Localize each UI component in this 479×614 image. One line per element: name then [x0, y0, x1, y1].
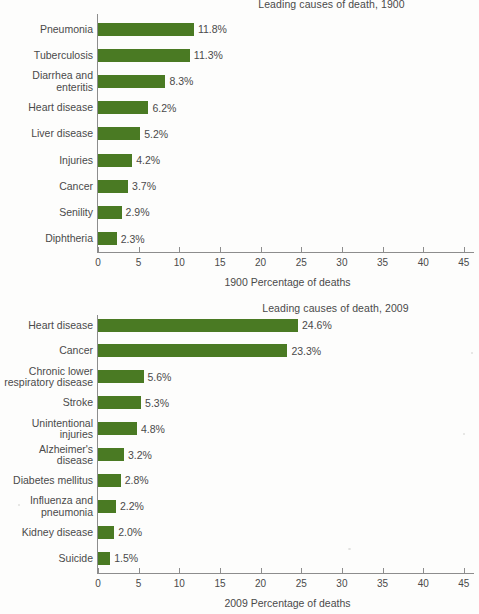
bar: [98, 500, 116, 513]
bar-value-label: 2.9%: [126, 206, 150, 218]
x-axis-tick: [342, 568, 343, 573]
bar-category-label: Kidney disease: [0, 527, 93, 539]
bar-category-label: Chronic lower respiratory disease: [0, 366, 93, 389]
bar: [98, 206, 122, 219]
bar: [98, 23, 194, 36]
x-axis-tick-label: 5: [136, 257, 142, 268]
x-axis-tick-label: 40: [418, 257, 429, 268]
bar-category-label: Tuberculosis: [0, 50, 93, 62]
bar: [98, 101, 148, 114]
scan-artifact-dot: [471, 352, 473, 354]
bar-category-label: Suicide: [0, 553, 93, 565]
bar-value-label: 5.6%: [148, 371, 172, 383]
scan-artifact-dot: [463, 433, 465, 435]
x-axis-tick: [179, 247, 180, 252]
bar-value-label: 2.8%: [125, 474, 149, 486]
bar-category-label: Diabetes mellitus: [0, 475, 93, 487]
x-axis-tick: [342, 247, 343, 252]
bar-category-label: Alzheimer's disease: [0, 444, 93, 467]
bar-category-label: Liver disease: [0, 128, 93, 140]
bar-category-label: Influenza and pneumonia: [0, 495, 93, 518]
bar-category-label: Stroke: [0, 397, 93, 409]
bar-value-label: 5.2%: [144, 128, 168, 140]
x-axis-tick: [423, 568, 424, 573]
x-axis-tick: [179, 568, 180, 573]
bar: [98, 49, 190, 62]
x-axis-tick-label: 45: [458, 257, 469, 268]
chart-1900-title: Leading causes of death, 1900: [0, 0, 479, 10]
x-axis-tick: [383, 247, 384, 252]
bar-value-label: 3.2%: [128, 449, 152, 461]
x-axis-tick-label: 0: [95, 257, 101, 268]
bar-value-label: 4.8%: [141, 423, 165, 435]
x-axis-tick-label: 25: [296, 578, 307, 589]
x-axis-tick-label: 35: [377, 257, 388, 268]
bar-value-label: 6.2%: [152, 102, 176, 114]
bar-value-label: 2.3%: [121, 233, 145, 245]
x-axis-tick-label: 5: [136, 578, 142, 589]
chart-2009: Leading causes of death, 2009 0510152025…: [0, 300, 479, 614]
bar-value-label: 1.5%: [114, 552, 138, 564]
x-axis-tick-label: 25: [296, 257, 307, 268]
x-axis-tick: [220, 247, 221, 252]
chart-1900-x-axis-label: 1900 Percentage of deaths: [0, 276, 479, 288]
x-axis-tick: [423, 247, 424, 252]
x-axis-tick-label: 35: [377, 578, 388, 589]
x-axis-tick-label: 40: [418, 578, 429, 589]
x-axis-tick: [464, 247, 465, 252]
bar-category-label: Diphtheria: [0, 233, 93, 245]
bar: [98, 422, 137, 435]
x-axis-tick-label: 0: [95, 578, 101, 589]
bar-category-label: Cancer: [0, 345, 93, 357]
x-axis-tick-label: 30: [336, 578, 347, 589]
x-axis-tick: [261, 247, 262, 252]
x-axis-tick-label: 20: [255, 257, 266, 268]
x-axis-tick-label: 30: [336, 257, 347, 268]
x-axis-tick: [383, 568, 384, 573]
x-axis-tick-label: 15: [214, 257, 225, 268]
x-axis-tick: [301, 568, 302, 573]
bar-category-label: Cancer: [0, 181, 93, 193]
x-axis-tick: [98, 568, 99, 573]
bar: [98, 232, 117, 245]
x-axis-tick-label: 20: [255, 578, 266, 589]
bar: [98, 552, 110, 565]
bar: [98, 154, 132, 167]
bar-category-label: Pneumonia: [0, 24, 93, 36]
bar-category-label: Heart disease: [0, 320, 93, 332]
x-axis-tick: [139, 568, 140, 573]
x-axis-tick: [261, 568, 262, 573]
x-axis-tick-label: 15: [214, 578, 225, 589]
bar-category-label: Unintentional injuries: [0, 418, 93, 441]
bar: [98, 127, 140, 140]
bar: [98, 474, 121, 487]
bar: [98, 180, 128, 193]
bar-value-label: 8.3%: [169, 75, 193, 87]
chart-2009-x-axis-label: 2009 Percentage of deaths: [0, 597, 479, 609]
x-axis-tick: [139, 247, 140, 252]
bar-value-label: 2.0%: [118, 526, 142, 538]
bar: [98, 75, 165, 88]
x-axis-line: [97, 573, 475, 574]
scan-artifact-dot: [18, 504, 20, 506]
bar: [98, 319, 298, 332]
x-axis-tick-label: 45: [458, 578, 469, 589]
figure-page: Leading causes of death, 1900 0510152025…: [0, 0, 479, 614]
bar-value-label: 24.6%: [302, 319, 332, 331]
bar-value-label: 23.3%: [291, 345, 321, 357]
x-axis-tick: [301, 247, 302, 252]
bar: [98, 370, 144, 383]
chart-1900: Leading causes of death, 1900 0510152025…: [0, 0, 479, 300]
bar-category-label: Injuries: [0, 155, 93, 167]
bar-value-label: 11.3%: [194, 49, 223, 61]
bar-value-label: 5.3%: [145, 397, 169, 409]
x-axis-line: [97, 252, 475, 253]
x-axis-tick: [98, 247, 99, 252]
bar-category-label: Heart disease: [0, 102, 93, 114]
bar-category-label: Diarrhea and enteritis: [0, 70, 93, 93]
bar-value-label: 2.2%: [120, 500, 144, 512]
bar-value-label: 3.7%: [132, 180, 156, 192]
bar: [98, 396, 141, 409]
bar-category-label: Senility: [0, 207, 93, 219]
scan-artifact-dot: [348, 548, 351, 550]
